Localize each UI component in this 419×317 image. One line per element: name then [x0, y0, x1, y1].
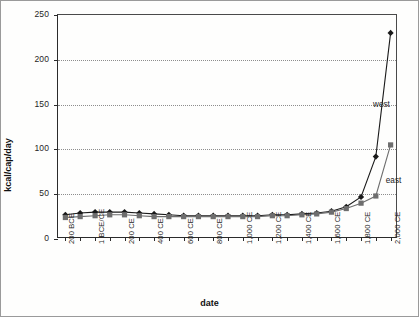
x-tick-label: 1 BCE/CE: [97, 209, 106, 244]
data-point-east: [78, 214, 83, 219]
y-tick-label: 250: [35, 9, 49, 19]
data-point-east: [107, 212, 112, 217]
x-tick-label: 1,200 CE: [274, 212, 283, 244]
data-series-layer: [58, 15, 398, 239]
x-tick-label: 600 CE: [186, 218, 195, 244]
data-point-east: [137, 213, 142, 218]
y-tick-label: 0: [44, 233, 49, 243]
y-tick-label: 200: [35, 54, 49, 64]
chart-figure: kcal/cap/day westeast 050100150200250 20…: [0, 0, 419, 317]
x-tick-label: 2,000 CE: [393, 212, 402, 244]
x-tick-label: 400 CE: [156, 218, 165, 244]
data-point-east: [285, 213, 290, 218]
data-point-east: [344, 206, 349, 211]
data-point-west: [358, 194, 364, 200]
data-point-east: [388, 142, 393, 147]
data-point-east: [225, 214, 230, 219]
series-label-east: east: [386, 176, 401, 185]
data-point-west: [373, 153, 379, 159]
x-tick-label: 200 CE: [127, 218, 136, 244]
x-tick-label: 1,800 CE: [363, 212, 372, 244]
data-point-east: [358, 201, 363, 206]
y-tick-mark: [54, 239, 58, 240]
series-label-west: west: [373, 100, 390, 109]
plot-area: westeast: [57, 14, 397, 238]
data-point-east: [255, 214, 260, 219]
x-tick-label: 1,400 CE: [304, 212, 313, 244]
series-line-east: [65, 145, 390, 218]
x-tick-label: 1,000 CE: [245, 212, 254, 244]
x-tick-label: 1,600 CE: [333, 212, 342, 244]
data-point-east: [196, 214, 201, 219]
x-axis-title: date: [1, 298, 418, 308]
data-point-east: [166, 214, 171, 219]
series-line-west: [65, 33, 390, 216]
data-point-east: [122, 212, 127, 217]
y-tick-label: 150: [35, 99, 49, 109]
y-tick-label: 100: [35, 143, 49, 153]
y-tick-label: 50: [39, 188, 49, 198]
data-point-east: [373, 193, 378, 198]
data-point-west: [388, 30, 394, 36]
x-tick-label: 200 BCE: [67, 213, 76, 244]
x-tick-label: 800 CE: [215, 218, 224, 244]
data-point-east: [314, 211, 319, 216]
y-axis-title: kcal/cap/day: [3, 138, 13, 192]
